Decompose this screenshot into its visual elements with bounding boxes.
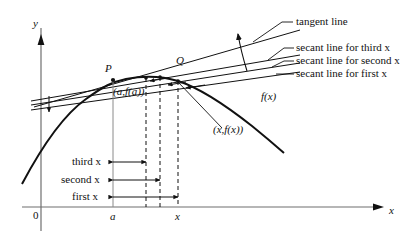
x-axis-arrowhead [373, 203, 384, 210]
point-q-label: Q [176, 55, 184, 66]
lines-through-p [31, 30, 300, 110]
x-tick-label-a: a [110, 211, 116, 222]
callout-secant-second: secant line for second x [296, 55, 400, 66]
point-p-coordinates: (a,f(a)) [113, 86, 144, 97]
point-q-coordinates: (x,f(x)) [213, 124, 243, 135]
origin-label: 0 [33, 210, 39, 221]
tangent-secant-diagram: y x 0 a x P (a,f(a)) Q (x,f(x)) f(x) tan… [0, 0, 413, 239]
point-p-dot [111, 78, 115, 82]
callout-secant-third: secant line for third x [296, 42, 390, 53]
diagram-canvas [0, 0, 413, 239]
callout-secant-first: secant line for first x [296, 68, 387, 79]
point-third-dot [144, 76, 148, 80]
x-tick-label-x: x [175, 211, 180, 222]
point-second-dot [158, 75, 162, 79]
y-axis-label: y [33, 18, 38, 29]
y-axis-arrowhead [38, 34, 45, 45]
point-p-label: P [105, 63, 112, 74]
measure-label-third: third x [72, 156, 101, 167]
leader-q-coordinates [178, 82, 222, 128]
curve-label: f(x) [261, 91, 276, 102]
callout-tangent-line: tangent line [296, 16, 348, 27]
x-axis-label: x [389, 205, 394, 216]
measure-label-second: second x [61, 174, 100, 185]
measure-label-first: first x [72, 191, 98, 202]
